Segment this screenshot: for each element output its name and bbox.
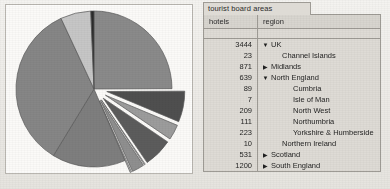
region-label: Cumbria (293, 85, 321, 93)
cell-region: ▶South England (258, 160, 380, 171)
grid-spacer-row (204, 29, 380, 39)
data-grid: hotels region 3444▼UK23Channel Islands87… (203, 14, 381, 172)
table-row[interactable]: 871▶Midlands (204, 61, 380, 72)
table-row[interactable]: 531▶Scotland (204, 149, 380, 160)
cell-hotels: 871 (204, 61, 258, 72)
pie-chart[interactable] (6, 5, 192, 173)
triangle-right-icon[interactable]: ▶ (260, 152, 271, 158)
pie-slice[interactable] (94, 11, 172, 89)
grid-rows: 3444▼UK23Channel Islands871▶Midlands639▼… (204, 39, 380, 171)
table-row[interactable]: 111Northumbria (204, 116, 380, 127)
table-row[interactable]: 223Yorkshire & Humberside (204, 127, 380, 138)
cell-region: ▼North England (258, 72, 380, 83)
region-label: North England (271, 74, 319, 82)
cell-hotels: 3444 (204, 39, 258, 50)
cell-region: Channel Islands (258, 50, 380, 61)
cell-region: Yorkshire & Humberside (258, 127, 380, 138)
region-label: Midlands (271, 63, 301, 71)
region-label: Northumbria (293, 118, 334, 126)
column-header-region-label: region (258, 18, 284, 26)
table-row[interactable]: 3444▼UK (204, 39, 380, 50)
column-header-hotels-label: hotels (204, 18, 229, 26)
cell-hotels: 531 (204, 149, 258, 160)
pie-slice-group (16, 11, 185, 172)
region-label: Yorkshire & Humberside (293, 129, 374, 137)
triangle-right-icon[interactable]: ▶ (260, 163, 271, 169)
cell-region: Cumbria (258, 83, 380, 94)
region-label: Scotland (271, 151, 300, 159)
data-grid-panel: tourist board areas hotels region 3444▼U… (203, 2, 383, 174)
cell-hotels: 223 (204, 127, 258, 138)
cell-hotels: 209 (204, 105, 258, 116)
cell-hotels: 23 (204, 50, 258, 61)
pie-chart-svg (6, 5, 192, 173)
triangle-right-icon[interactable]: ▶ (260, 64, 271, 70)
cell-region: ▶Midlands (258, 61, 380, 72)
region-label: Isle of Man (293, 96, 330, 104)
cell-region: ▶Scotland (258, 149, 380, 160)
column-header-hotels[interactable]: hotels (204, 15, 258, 28)
triangle-down-icon[interactable]: ▼ (260, 42, 271, 48)
cell-hotels: 639 (204, 72, 258, 83)
region-label: Northern Ireland (282, 140, 336, 148)
column-header-region[interactable]: region (258, 15, 380, 28)
page-background: tourist board areas hotels region 3444▼U… (0, 0, 390, 189)
cell-hotels: 111 (204, 116, 258, 127)
grid-header-row: hotels region (204, 15, 380, 29)
table-row[interactable]: 7Isle of Man (204, 94, 380, 105)
cell-region: ▼UK (258, 39, 380, 50)
cell-region: Northern Ireland (258, 138, 380, 149)
region-label: Channel Islands (282, 52, 336, 60)
cell-region: Northumbria (258, 116, 380, 127)
table-row[interactable]: 23Channel Islands (204, 50, 380, 61)
triangle-down-icon[interactable]: ▼ (260, 75, 271, 81)
cell-hotels: 1200 (204, 160, 258, 171)
table-row[interactable]: 209North West (204, 105, 380, 116)
pie-chart-panel (5, 4, 193, 174)
spacer-cell-region (258, 29, 380, 38)
region-label: UK (271, 41, 281, 49)
table-row[interactable]: 10Northern Ireland (204, 138, 380, 149)
cell-region: Isle of Man (258, 94, 380, 105)
cell-hotels: 10 (204, 138, 258, 149)
cell-hotels: 89 (204, 83, 258, 94)
spacer-cell-hotels (204, 29, 258, 38)
region-label: South England (271, 162, 320, 170)
region-label: North West (293, 107, 330, 115)
table-row[interactable]: 89Cumbria (204, 83, 380, 94)
tab-label: tourist board areas (208, 5, 272, 13)
cell-region: North West (258, 105, 380, 116)
table-row[interactable]: 639▼North England (204, 72, 380, 83)
table-row[interactable]: 1200▶South England (204, 160, 380, 171)
cell-hotels: 7 (204, 94, 258, 105)
tab-tourist-board-areas[interactable]: tourist board areas (203, 2, 311, 15)
